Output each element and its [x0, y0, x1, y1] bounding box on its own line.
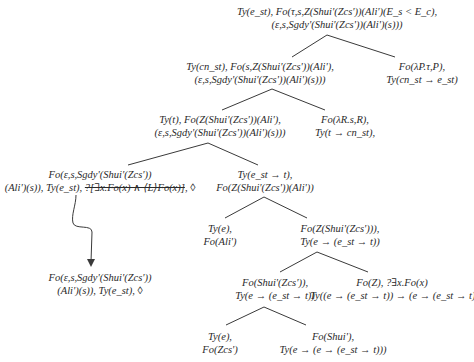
wavy-arrow	[73, 195, 92, 262]
node-n0010: Ty(e), Fo(Ali')	[195, 222, 245, 248]
node-root: Ty(e_st), Fo(τ,s,Z(Shui'(Zcs'))(Ali')(E_…	[200, 5, 474, 31]
node-n00: Ty(t), Fo(Z(Shui'(Zcs'))(Ali'), (ε,s,Sgd…	[120, 113, 320, 139]
edge-root-n0	[292, 35, 327, 57]
edge-n0-n00	[222, 89, 272, 110]
edge-n001-n0011	[264, 197, 307, 218]
edge-n0-n01	[272, 89, 325, 110]
edge-n0011-n00110	[280, 252, 317, 272]
edge-n00-n001	[208, 143, 258, 165]
edge-n0011-n00111	[317, 252, 368, 272]
edge-n00-n000	[128, 143, 208, 165]
node-n001101: Fo(Shui'), Ty(e → (e → (e_st → t)))	[258, 330, 408, 356]
edge-n001-n0010	[225, 197, 264, 218]
node-n001100: Ty(e), Fo(Zcs')	[190, 330, 250, 356]
arrowhead-icon	[87, 259, 95, 267]
node-result: Fo(ε,s,Sgdy'(Shui'(Zcs')) (Ali')(s)), Ty…	[20, 271, 180, 297]
edge-n00110-n001101	[264, 307, 306, 325]
edge-n00110-n001100	[226, 307, 264, 325]
node-n000: Fo(ε,s,Sgdy'(Shui'(Zcs')) (Ali')(s)), Ty…	[0, 168, 200, 194]
node-n0: Ty(cn_st), Fo(s,Z(Shui'(Zcs'))(Ali'), (ε…	[150, 60, 370, 86]
node-n1: Fo(λP.τ,P), Ty(cn_st → e_st)	[370, 60, 474, 86]
struck-requirement: ?[∃x.Fo(x) ∧ ⟨L⟩Fo(x)]	[85, 182, 185, 193]
node-n01: Fo(λR.s,R), Ty(t → cn_st),	[305, 113, 385, 139]
node-n0011: Fo(Z(Shui'(Zcs'))), Ty(e → (e_st → t))	[270, 222, 410, 248]
node-n001: Ty(e_st → t), Fo(Z(Shui'(Zcs'))(Ali'))	[200, 168, 330, 194]
edge-root-n1	[327, 35, 395, 57]
node-n00110: Fo(Shui'(Zcs')), Ty(e → (e_st → t))	[230, 276, 320, 302]
node-n00111: Fo(Z), ?∃x.Fo(x) Ty((e → (e_st → t)) → (…	[310, 276, 474, 302]
